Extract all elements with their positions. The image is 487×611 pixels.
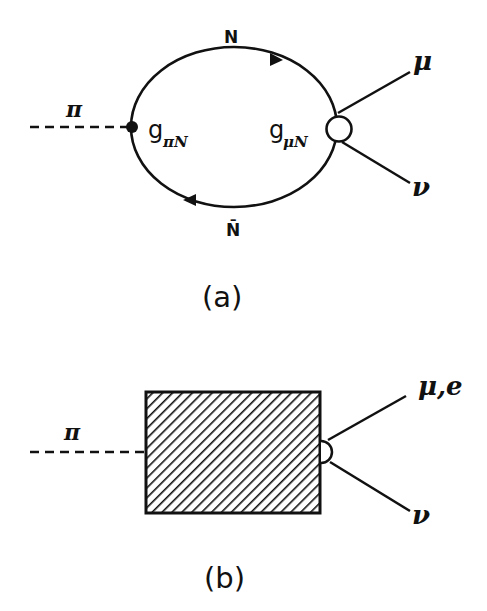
weak-vertex-a [327, 117, 352, 142]
pion-nucleon-vertex [126, 121, 138, 133]
muon-line-a [338, 72, 410, 113]
pion-label-a: π [65, 96, 83, 122]
feynman-diagrams: π N N̄ g πN g μN μ ν (a) π μ,e ν [0, 0, 487, 611]
hatched-blob [146, 392, 320, 513]
antinucleon-label: N̄ [226, 219, 240, 240]
g-mu-n-label: g [269, 116, 284, 144]
neutrino-line-a [342, 142, 410, 183]
diagram-a: π N N̄ g πN g μN μ ν (a) [30, 27, 432, 314]
g-pi-n-label: g [148, 116, 163, 144]
neutrino-label-a: ν [412, 172, 430, 202]
nucleon-label: N [224, 27, 238, 47]
diagram-b: π μ,e ν (b) [30, 371, 463, 595]
neutrino-line-b [330, 462, 410, 511]
lepton-label-b: μ,e [418, 371, 463, 401]
neutrino-label-b: ν [412, 500, 430, 530]
pion-label-b: π [63, 419, 81, 445]
g-pi-n-subscript: πN [162, 133, 189, 151]
arrow-backward-icon [183, 194, 196, 206]
g-mu-n-subscript: μN [283, 133, 309, 151]
lepton-line-b [328, 396, 406, 440]
caption-a: (a) [202, 280, 242, 314]
weak-vertex-b [321, 441, 332, 463]
muon-label-a: μ [413, 46, 432, 76]
caption-b: (b) [204, 561, 245, 595]
